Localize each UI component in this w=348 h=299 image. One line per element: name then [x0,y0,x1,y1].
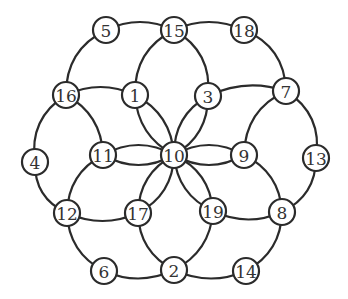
node-13: 13 [303,145,329,171]
node-label: 2 [169,261,180,281]
node-label: 13 [305,149,327,169]
node-4: 4 [22,149,48,175]
node-17: 17 [125,200,151,226]
node-6: 6 [91,258,117,284]
node-7: 7 [273,78,299,104]
node-label: 4 [30,153,41,173]
node-19: 19 [200,198,226,224]
node-16: 16 [53,82,79,108]
node-label: 15 [163,21,185,41]
node-10: 10 [161,142,187,168]
nodes-layer: 12345678910111213141516171819 [22,17,329,284]
node-label: 17 [127,204,149,224]
node-1: 1 [122,82,148,108]
node-2: 2 [161,257,187,283]
node-label: 16 [55,86,77,106]
node-14: 14 [233,258,259,284]
node-label: 5 [101,21,112,41]
node-5: 5 [93,17,119,43]
node-label: 19 [202,202,224,222]
node-label: 9 [239,146,250,166]
node-label: 6 [99,262,110,282]
node-label: 7 [281,82,292,102]
node-label: 8 [277,203,288,223]
node-15: 15 [161,17,187,43]
node-18: 18 [231,17,257,43]
node-12: 12 [54,200,80,226]
node-11: 11 [90,142,116,168]
node-3: 3 [195,83,221,109]
node-label: 12 [56,204,78,224]
node-label: 3 [203,87,214,107]
node-label: 18 [233,21,255,41]
graph-diagram: 12345678910111213141516171819 [0,0,348,299]
node-8: 8 [269,199,295,225]
node-label: 14 [235,262,257,282]
node-label: 11 [92,146,114,166]
node-label: 10 [163,146,185,166]
node-label: 1 [130,86,141,106]
node-9: 9 [231,142,257,168]
